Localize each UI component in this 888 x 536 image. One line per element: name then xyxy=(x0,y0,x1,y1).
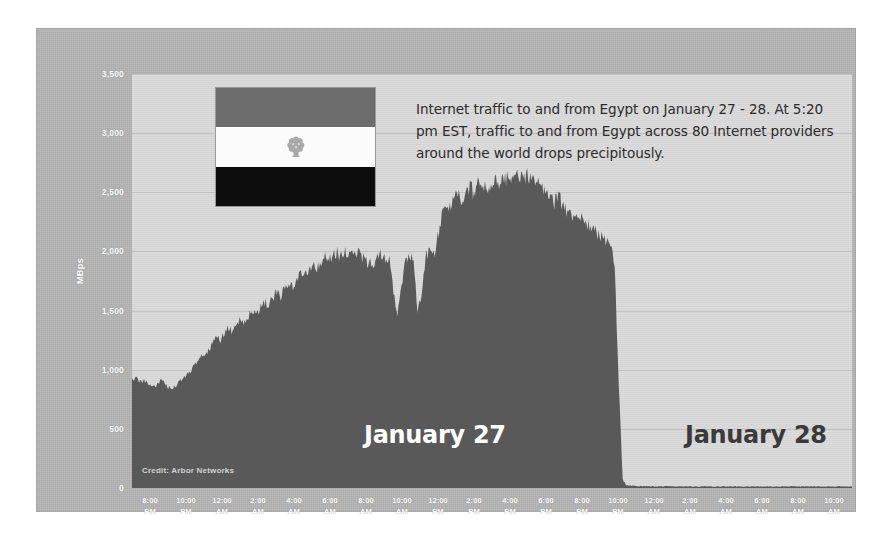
x-tick-time: 6:00 xyxy=(322,496,337,507)
day-label-january-27: January 27 xyxy=(364,421,506,449)
x-tick-meridiem: AM xyxy=(286,507,301,518)
x-tick-label: 10:00AM xyxy=(392,496,412,517)
x-tick-meridiem: AM xyxy=(644,507,664,518)
x-tick-time: 10:00 xyxy=(824,496,844,507)
x-tick-label: 4:00AM xyxy=(718,496,733,517)
x-tick-time: 8:00 xyxy=(574,496,589,507)
x-tick-label: 8:00PM xyxy=(574,496,589,517)
x-tick-meridiem: AM xyxy=(212,507,232,518)
x-tick-time: 4:00 xyxy=(286,496,301,507)
eagle-of-saladin-icon xyxy=(283,134,309,160)
x-tick-meridiem: PM xyxy=(538,507,553,518)
x-tick-time: 6:00 xyxy=(538,496,553,507)
x-tick-label: 2:00AM xyxy=(250,496,265,517)
x-tick-label: 8:00AM xyxy=(790,496,805,517)
x-tick-label: 12:00AM xyxy=(212,496,232,517)
x-tick-time: 12:00 xyxy=(644,496,664,507)
x-axis-ticks: 8:00PM10:00PM12:00AM2:00AM4:00AM6:00AM8:… xyxy=(132,496,852,528)
x-tick-label: 2:00AM xyxy=(682,496,697,517)
x-tick-time: 6:00 xyxy=(754,496,769,507)
y-tick-label: 0 xyxy=(119,483,124,493)
x-tick-time: 10:00 xyxy=(608,496,628,507)
x-tick-time: 10:00 xyxy=(392,496,412,507)
x-tick-label: 10:00PM xyxy=(176,496,196,517)
x-tick-time: 4:00 xyxy=(502,496,517,507)
x-tick-label: 10:00AM xyxy=(824,496,844,517)
x-tick-time: 8:00 xyxy=(142,496,157,507)
x-tick-time: 12:00 xyxy=(428,496,448,507)
x-tick-meridiem: PM xyxy=(608,507,628,518)
x-tick-meridiem: AM xyxy=(718,507,733,518)
x-tick-label: 4:00AM xyxy=(286,496,301,517)
egypt-flag xyxy=(215,87,376,207)
x-tick-label: 12:00AM xyxy=(644,496,664,517)
x-tick-meridiem: PM xyxy=(142,507,157,518)
x-tick-meridiem: PM xyxy=(502,507,517,518)
y-tick-label: 3,000 xyxy=(102,128,124,138)
x-tick-meridiem: AM xyxy=(358,507,373,518)
x-tick-time: 2:00 xyxy=(250,496,265,507)
x-tick-label: 6:00PM xyxy=(538,496,553,517)
x-tick-time: 2:00 xyxy=(682,496,697,507)
y-tick-label: 1,000 xyxy=(102,365,124,375)
shutdown-annotation: Internet traffic to and from Egypt on Ja… xyxy=(416,98,841,164)
x-tick-time: 2:00 xyxy=(466,496,481,507)
flag-band-bottom xyxy=(216,167,375,206)
y-tick-label: 3,500 xyxy=(102,69,124,79)
x-tick-label: 10:00PM xyxy=(608,496,628,517)
y-tick-label: 1,500 xyxy=(102,306,124,316)
y-tick-label: 2,500 xyxy=(102,187,124,197)
x-tick-time: 8:00 xyxy=(790,496,805,507)
x-tick-meridiem: PM xyxy=(176,507,196,518)
x-tick-meridiem: AM xyxy=(824,507,844,518)
plot-area: 3,5003,0002,5002,0001,5001,0005000 xyxy=(132,74,852,488)
x-tick-label: 2:00PM xyxy=(466,496,481,517)
day-label-january-28: January 28 xyxy=(685,421,827,449)
x-tick-meridiem: AM xyxy=(250,507,265,518)
x-tick-label: 8:00PM xyxy=(142,496,157,517)
x-tick-time: 8:00 xyxy=(358,496,373,507)
x-tick-time: 12:00 xyxy=(212,496,232,507)
y-tick-label: 500 xyxy=(109,424,124,434)
x-tick-label: 6:00AM xyxy=(322,496,337,517)
x-tick-time: 4:00 xyxy=(718,496,733,507)
x-tick-label: 4:00PM xyxy=(502,496,517,517)
x-tick-meridiem: AM xyxy=(790,507,805,518)
y-tick-label: 2,000 xyxy=(102,246,124,256)
x-tick-meridiem: AM xyxy=(322,507,337,518)
screenshot-root: MBps 3,5003,0002,5002,0001,5001,0005000 xyxy=(0,0,888,536)
flag-band-top xyxy=(216,88,375,127)
x-tick-label: 6:00AM xyxy=(754,496,769,517)
x-tick-meridiem: AM xyxy=(754,507,769,518)
x-tick-meridiem: AM xyxy=(392,507,412,518)
x-tick-time: 10:00 xyxy=(176,496,196,507)
x-tick-label: 12:00PM xyxy=(428,496,448,517)
x-tick-label: 8:00AM xyxy=(358,496,373,517)
x-tick-meridiem: PM xyxy=(428,507,448,518)
x-tick-meridiem: AM xyxy=(682,507,697,518)
chart-panel: MBps 3,5003,0002,5002,0001,5001,0005000 xyxy=(36,28,856,512)
y-axis-label: MBps xyxy=(75,258,85,284)
x-tick-meridiem: PM xyxy=(466,507,481,518)
credit-label: Credit: Arbor Networks xyxy=(142,466,234,475)
x-tick-meridiem: PM xyxy=(574,507,589,518)
